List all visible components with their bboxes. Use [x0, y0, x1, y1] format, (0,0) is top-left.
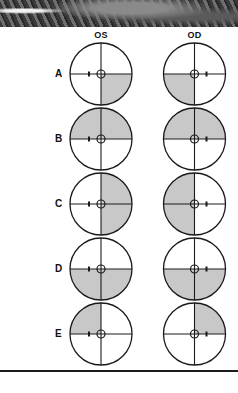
blind-spot-marker: [88, 137, 90, 142]
visual-field-e-od: [164, 303, 226, 365]
visual-field-c-od: [164, 173, 226, 235]
blind-spot-marker: [206, 332, 208, 337]
blind-spot-marker: [206, 137, 208, 142]
visual-field-diagrams: [0, 0, 238, 393]
visual-field-a-od: [164, 43, 226, 105]
blind-spot-marker: [206, 267, 208, 272]
visual-field-a-os: [70, 43, 132, 105]
blind-spot-marker: [206, 72, 208, 77]
divider-line: [0, 370, 238, 372]
blind-spot-marker: [88, 267, 90, 272]
blind-spot-marker: [88, 332, 90, 337]
visual-field-d-os: [70, 238, 132, 300]
visual-field-c-os: [70, 173, 132, 235]
visual-field-b-os: [70, 108, 132, 170]
visual-field-b-od: [164, 108, 226, 170]
blind-spot-marker: [88, 72, 90, 77]
blind-spot-marker: [88, 202, 90, 207]
blind-spot-marker: [206, 202, 208, 207]
visual-field-e-os: [70, 303, 132, 365]
visual-field-d-od: [164, 238, 226, 300]
